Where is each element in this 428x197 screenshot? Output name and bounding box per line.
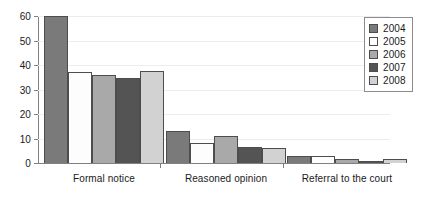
category-label: Referral to the court [302, 173, 392, 184]
y-axis-tick [34, 163, 38, 164]
legend: 20042005200620072008 [364, 17, 413, 92]
bar [116, 78, 140, 163]
bar [140, 71, 164, 163]
bar-chart: 0102030405060 Formal noticeReasoned opin… [0, 0, 428, 197]
bar-groups [38, 16, 390, 163]
bar-group [166, 16, 286, 163]
legend-swatch-icon [369, 50, 378, 59]
y-axis-tick-label: 50 [20, 35, 31, 46]
bar [335, 159, 359, 163]
bar [383, 159, 407, 163]
bar [214, 136, 238, 163]
bar [166, 131, 190, 163]
legend-item[interactable]: 2004 [369, 22, 406, 35]
legend-swatch-icon [369, 76, 378, 85]
y-axis-tick-label: 10 [20, 133, 31, 144]
legend-item-label: 2004 [383, 24, 406, 34]
legend-item[interactable]: 2008 [369, 74, 406, 87]
plot-area: 0102030405060 [38, 16, 390, 164]
bar [262, 148, 286, 163]
bar [238, 147, 262, 163]
category-label: Reasoned opinion [185, 173, 267, 184]
legend-item[interactable]: 2007 [369, 61, 406, 74]
legend-swatch-icon [369, 24, 378, 33]
legend-swatch-icon [369, 63, 378, 72]
bar [68, 72, 92, 163]
category-separator-tick [283, 163, 284, 168]
category-label: Formal notice [73, 173, 135, 184]
legend-swatch-icon [369, 37, 378, 46]
y-axis-tick-label: 20 [20, 109, 31, 120]
bar [287, 156, 311, 163]
legend-item-label: 2008 [383, 76, 406, 86]
legend-item-label: 2007 [383, 63, 406, 73]
legend-item-label: 2006 [383, 50, 406, 60]
bar-group [44, 16, 164, 163]
y-axis-tick-label: 60 [20, 11, 31, 22]
bar [92, 75, 116, 163]
bar [359, 161, 383, 163]
y-axis-tick-label: 40 [20, 60, 31, 71]
legend-item[interactable]: 2006 [369, 48, 406, 61]
category-separator-tick [160, 163, 161, 168]
y-axis-tick-label: 0 [25, 158, 31, 169]
legend-item[interactable]: 2005 [369, 35, 406, 48]
bar [190, 143, 214, 163]
y-axis-tick-label: 30 [20, 84, 31, 95]
legend-item-label: 2005 [383, 37, 406, 47]
bar [44, 16, 68, 163]
bar [311, 156, 335, 163]
